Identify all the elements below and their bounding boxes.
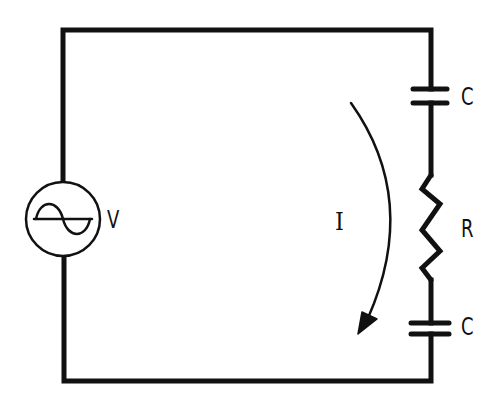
current-label: I [335,209,344,234]
resistor-label: R [461,217,474,241]
wire-top [63,30,431,182]
current-arrow-arc [351,103,390,318]
circuit-diagram: V C R C I [0,0,496,406]
current-direction-arrow [351,103,390,334]
capacitor-top [413,89,447,103]
circuit-schematic [0,0,496,406]
capacitor-bottom-label: C [461,315,474,339]
source-label: V [107,208,119,232]
capacitor-top-label: C [461,85,474,109]
ac-voltage-source [26,182,100,256]
arrowhead-icon [358,312,377,334]
capacitor-bottom [411,323,449,334]
resistor-zigzag [422,175,440,280]
